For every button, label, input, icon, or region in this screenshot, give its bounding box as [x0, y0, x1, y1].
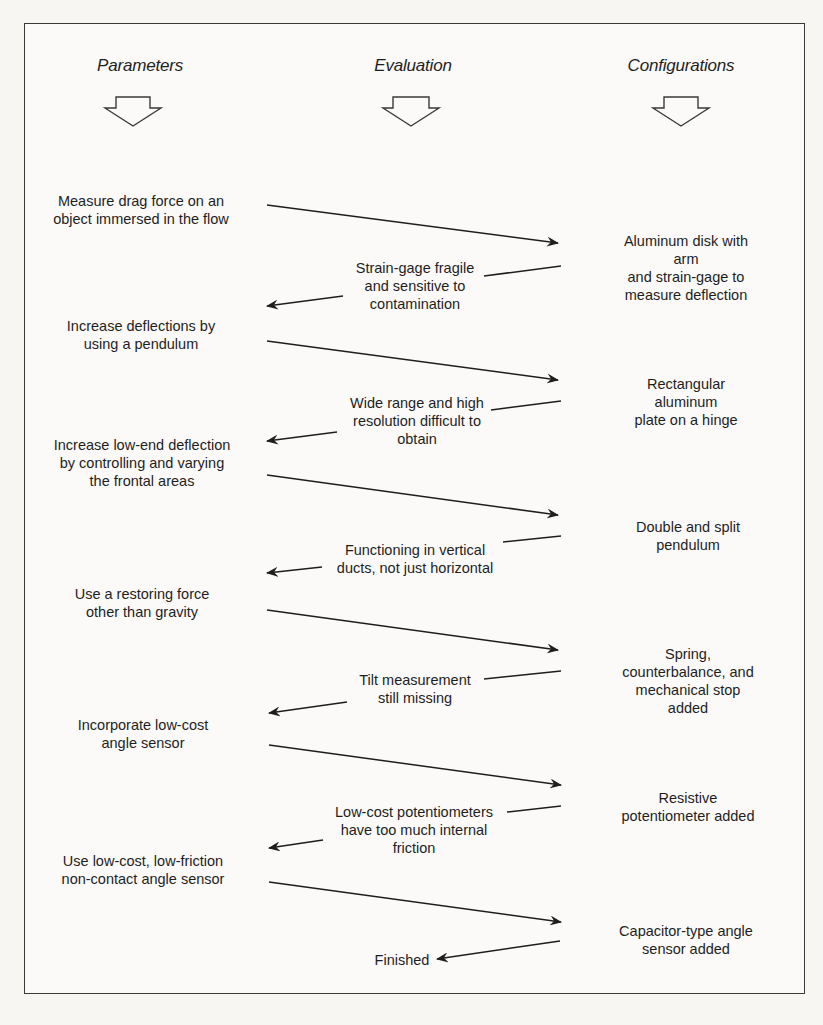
parameter-node: Incorporate low-cost angle sensor	[78, 716, 209, 752]
column-header-parameters: Parameters	[40, 56, 240, 76]
evaluation-node: Functioning in vertical ducts, not just …	[337, 541, 493, 577]
parameter-node: Use a restoring force other than gravity	[75, 585, 210, 621]
configuration-node: Rectangular aluminum plate on a hinge	[618, 375, 755, 429]
configuration-node: Aluminum disk with arm and strain-gage t…	[618, 232, 755, 304]
parameter-node: Use low-cost, low-friction non-contact a…	[62, 852, 225, 888]
column-header-evaluation: Evaluation	[313, 56, 513, 76]
evaluation-node: Wide range and high resolution difficult…	[350, 394, 484, 448]
configuration-node: Capacitor-type angle sensor added	[619, 922, 753, 958]
parameter-node: Measure drag force on an object immersed…	[53, 192, 229, 228]
parameter-node: Increase low-end deflection by controlli…	[54, 436, 231, 490]
evaluation-node: Tilt measurement still missing	[359, 671, 470, 707]
configuration-node: Resistive potentiometer added	[621, 789, 756, 825]
evaluation-node: Strain-gage fragile and sensitive to con…	[356, 259, 475, 313]
parameter-node: Increase deflections by using a pendulum	[67, 317, 215, 353]
configuration-node: Spring, counterbalance, and mechanical s…	[621, 645, 756, 717]
finished-node: Finished	[375, 951, 430, 969]
column-header-configurations: Configurations	[581, 56, 781, 76]
evaluation-node: Low-cost potentiometers have too much in…	[335, 803, 493, 857]
configuration-node: Double and split pendulum	[621, 518, 756, 554]
